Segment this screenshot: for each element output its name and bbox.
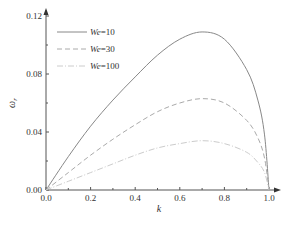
legend-item-we10: We=10 xyxy=(57,27,115,37)
x-ticks: 0.00.20.40.60.81.0 xyxy=(40,187,275,203)
y-tick-label: 0.08 xyxy=(26,69,42,79)
series-line-we10 xyxy=(46,32,269,190)
y-tick-label: 0.12 xyxy=(26,11,42,21)
x-tick-label: 0.4 xyxy=(130,193,142,203)
x-tick-label: 0.8 xyxy=(219,193,231,203)
x-tick-label: 1.0 xyxy=(263,193,275,203)
y-axis-label: ωr xyxy=(6,98,19,108)
x-axis-arrow-icon xyxy=(274,188,281,193)
svg-text:ωr: ωr xyxy=(6,98,19,108)
y-tick-label: 0.00 xyxy=(26,185,42,195)
y-tick-label: 0.04 xyxy=(26,127,42,137)
svg-text:We=100: We=100 xyxy=(90,61,120,71)
x-axis-label: k xyxy=(157,203,162,214)
svg-text:We=10: We=10 xyxy=(90,27,115,37)
y-axis-arrow-icon xyxy=(44,8,49,15)
series-layer xyxy=(46,32,269,190)
legend: We=10 We=30 We=100 xyxy=(57,27,120,71)
x-tick-label: 0.2 xyxy=(85,193,96,203)
legend-item-we100: We=100 xyxy=(57,61,120,71)
legend-item-we30: We=30 xyxy=(57,44,115,54)
line-chart: 0.00.20.40.60.81.0 0.000.040.080.12 k ωr… xyxy=(0,0,292,227)
x-tick-label: 0.0 xyxy=(40,193,52,203)
figure-caption-faint xyxy=(30,214,280,222)
series-line-we30 xyxy=(46,99,269,190)
x-tick-label: 0.6 xyxy=(174,193,186,203)
svg-text:We=30: We=30 xyxy=(90,44,115,54)
series-line-we100 xyxy=(46,141,269,190)
